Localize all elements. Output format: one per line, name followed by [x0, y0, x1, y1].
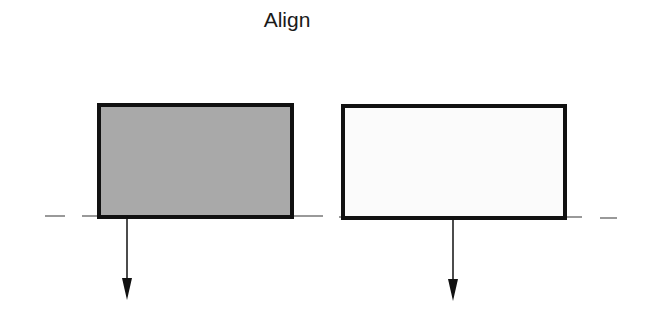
align-diagram — [0, 0, 650, 332]
right-arrow-icon — [448, 218, 458, 301]
left-arrow-icon — [122, 217, 132, 300]
right-box — [343, 106, 565, 218]
left-box — [99, 105, 292, 217]
